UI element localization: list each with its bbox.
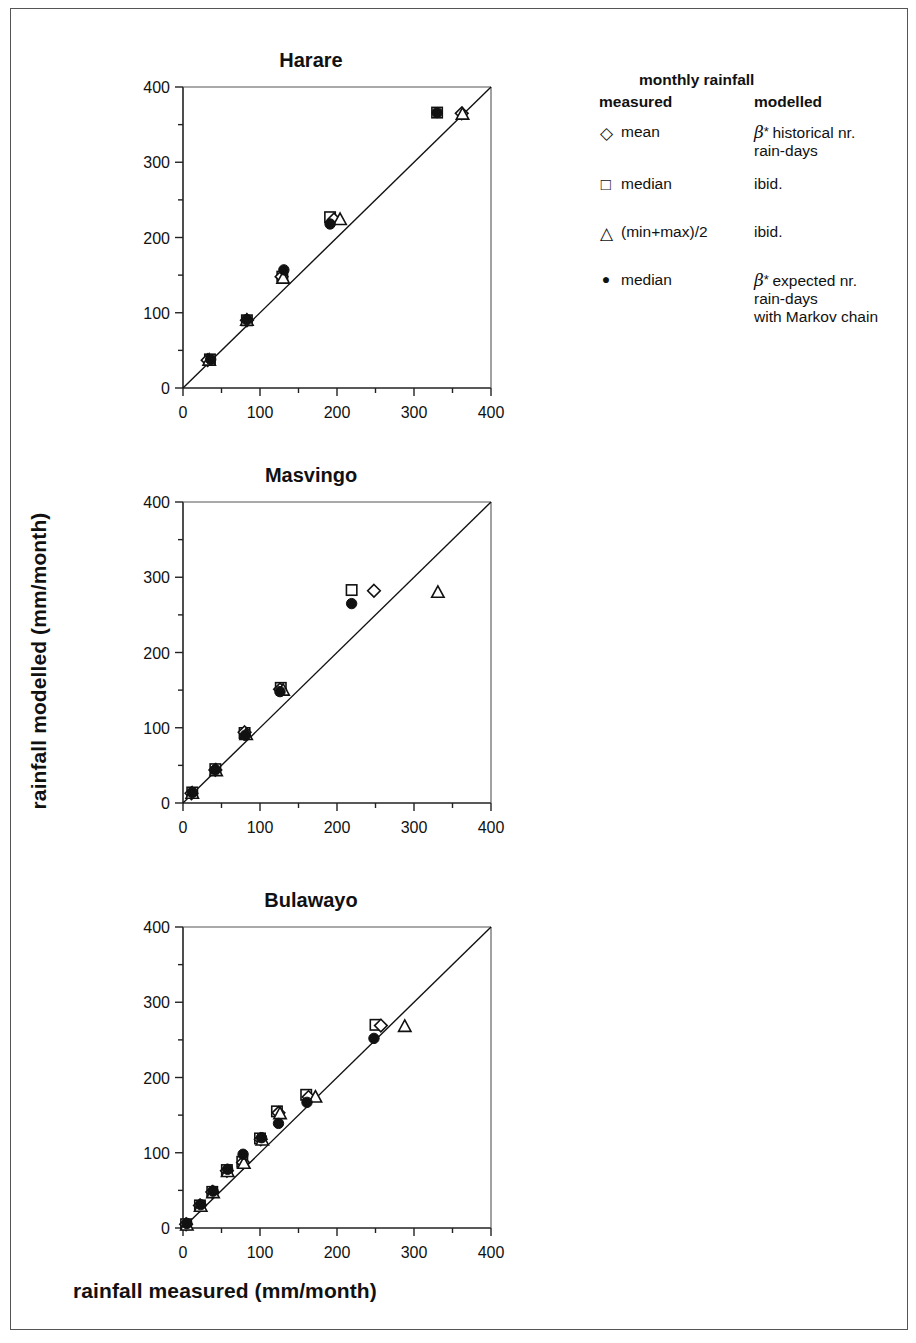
legend-measured-label: median: [621, 271, 672, 289]
beta-glyph: β: [754, 122, 764, 142]
data-point-circle-filled: [187, 787, 197, 797]
legend-modelled-label: β* expected nr.rain-dayswith Markov chai…: [754, 271, 878, 326]
data-point-circle-filled: [279, 265, 289, 275]
y-axis-label: rainfall modelled (mm/month): [27, 481, 51, 841]
chart-panel-bulawayo: Bulawayo 01002003004000100200300400: [131, 889, 551, 1289]
plot-area-masvingo: 01002003004000100200300400: [131, 464, 551, 864]
data-point-square-open: [346, 585, 356, 595]
data-point-circle-filled: [302, 1097, 312, 1107]
x-tick-label: 300: [401, 404, 428, 421]
data-point-triangle-open: [432, 586, 444, 597]
data-point-circle-filled: [242, 314, 252, 324]
legend-row: □medianibid.: [591, 175, 916, 201]
legend-row: △(min+max)/2ibid.: [591, 223, 916, 249]
data-point-circle-filled: [275, 686, 285, 696]
diamond-open-marker: ◇: [595, 123, 617, 144]
x-tick-label: 200: [324, 404, 351, 421]
plot-area-bulawayo: 01002003004000100200300400: [131, 889, 551, 1289]
series-diamond-open: [201, 107, 468, 366]
data-point-circle-filled: [206, 354, 216, 364]
series-triangle-open: [203, 108, 469, 365]
legend-heading-top: monthly rainfall: [639, 71, 754, 89]
beta-glyph: β: [754, 270, 764, 290]
x-tick-label: 300: [401, 819, 428, 836]
data-point-circle-filled: [240, 730, 250, 740]
star-glyph: *: [764, 272, 773, 287]
x-tick-label: 100: [247, 404, 274, 421]
data-point-circle-filled: [210, 765, 220, 775]
data-point-circle-filled: [325, 219, 335, 229]
x-tick-label: 200: [324, 1244, 351, 1261]
triangle-open-marker: △: [595, 223, 617, 244]
data-point-diamond-open: [368, 584, 381, 597]
x-tick-label: 0: [179, 1244, 188, 1261]
series-triangle-open: [181, 1020, 411, 1230]
data-point-circle-filled: [369, 1033, 379, 1043]
chart-panel-masvingo: Masvingo 01002003004000100200300400: [131, 464, 551, 864]
x-tick-label: 400: [478, 404, 505, 421]
y-tick-label: 300: [143, 154, 170, 171]
identity-line: [183, 87, 491, 388]
data-point-circle-filled: [346, 598, 356, 608]
x-tick-label: 400: [478, 1244, 505, 1261]
series-circle-filled: [187, 598, 357, 797]
data-point-triangle-open: [399, 1020, 411, 1031]
x-tick-label: 300: [401, 1244, 428, 1261]
identity-line: [183, 927, 491, 1228]
y-tick-label: 400: [143, 79, 170, 96]
y-tick-label: 100: [143, 720, 170, 737]
data-point-circle-filled: [256, 1133, 266, 1143]
y-tick-label: 400: [143, 919, 170, 936]
legend-heading-modelled: modelled: [754, 93, 822, 111]
data-point-circle-filled: [273, 1118, 283, 1128]
y-tick-label: 400: [143, 494, 170, 511]
legend-measured-label: (min+max)/2: [621, 223, 708, 241]
legend-measured-label: mean: [621, 123, 660, 141]
y-tick-label: 100: [143, 1145, 170, 1162]
y-tick-label: 300: [143, 569, 170, 586]
legend-modelled-label: β* historical nr.rain-days: [754, 123, 855, 160]
y-tick-label: 0: [161, 380, 170, 397]
y-tick-label: 100: [143, 305, 170, 322]
data-point-circle-filled: [238, 1149, 248, 1159]
y-tick-label: 200: [143, 645, 170, 662]
identity-line: [183, 502, 491, 803]
y-tick-label: 0: [161, 1220, 170, 1237]
legend: monthly rainfall measured modelled ◇mean…: [591, 71, 916, 123]
x-tick-label: 200: [324, 819, 351, 836]
series-triangle-open: [186, 586, 444, 798]
y-tick-label: 0: [161, 795, 170, 812]
legend-header: monthly rainfall measured modelled: [591, 71, 916, 123]
y-tick-label: 200: [143, 230, 170, 247]
legend-row: ●medianβ* expected nr.rain-dayswith Mark…: [591, 271, 916, 297]
y-tick-label: 200: [143, 1070, 170, 1087]
legend-heading-measured: measured: [599, 93, 672, 111]
x-tick-label: 400: [478, 819, 505, 836]
legend-measured-label: median: [621, 175, 672, 193]
x-tick-label: 100: [247, 819, 274, 836]
legend-modelled-label: ibid.: [754, 223, 782, 241]
data-point-circle-filled: [222, 1164, 232, 1174]
data-point-circle-filled: [196, 1199, 206, 1209]
data-point-circle-filled: [432, 107, 442, 117]
chart-panel-harare: Harare 01002003004000100200300400: [131, 49, 551, 449]
square-open-marker: □: [595, 175, 617, 195]
legend-modelled-label: ibid.: [754, 175, 782, 193]
x-tick-label: 100: [247, 1244, 274, 1261]
data-point-circle-filled: [182, 1218, 192, 1228]
star-glyph: *: [764, 124, 773, 139]
legend-row: ◇meanβ* historical nr.rain-days: [591, 123, 916, 149]
y-tick-label: 300: [143, 994, 170, 1011]
circle-filled-marker: ●: [595, 271, 617, 287]
plot-area-harare: 01002003004000100200300400: [131, 49, 551, 449]
x-tick-label: 0: [179, 404, 188, 421]
x-tick-label: 0: [179, 819, 188, 836]
data-point-circle-filled: [208, 1186, 218, 1196]
figure-border: rainfall modelled (mm/month) rainfall me…: [10, 8, 908, 1330]
series-circle-filled: [182, 1033, 380, 1229]
